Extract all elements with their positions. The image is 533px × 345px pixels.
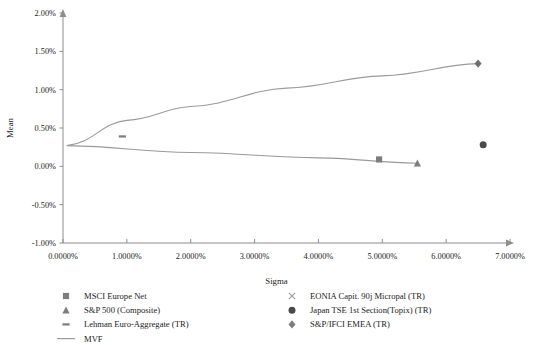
x-tick-label: 6.0000% [431,252,461,261]
y-tick-label: 1.00% [35,86,57,95]
x-tick-label: 2.0000% [176,252,206,261]
data-point-marker [119,135,126,137]
legend-marker-circle [289,307,296,314]
legend-marker-cross [289,293,295,299]
mvf-lower-branch [67,146,418,164]
legend-marker-square [63,293,69,299]
y-tick-label: 1.50% [35,47,57,56]
y-tick-label: 2.00% [35,9,57,18]
x-axis-title: Sigma [265,276,288,286]
y-tick-label: 0.50% [35,124,57,133]
x-tick-label: 5.0000% [367,252,397,261]
x-axis-ticks: 0.0000%1.0000%2.0000%3.0000%4.0000%5.000… [48,239,525,261]
legend-label: S&P/IFCI EMEA (TR) [310,319,390,329]
legend-label: MSCI Europe Net [84,291,147,301]
mvf-frontier [67,64,478,164]
legend-label: Lehman Euro-Aggregate (TR) [84,319,189,329]
y-tick-label: -1.00% [32,239,56,248]
y-axis-ticks: 2.00%1.50%1.00%0.50%0.00%-0.50%-1.00% [32,9,63,248]
y-axis-title: Mean [5,117,15,138]
legend-marker-triangle [62,306,69,313]
y-tick-label: 0.00% [35,162,57,171]
x-tick-label: 3.0000% [240,252,270,261]
mvf-upper-branch [67,64,478,146]
data-point-marker [475,60,482,68]
legend-label: Japan TSE 1st Section(Topix) (TR) [310,305,432,315]
x-tick-label: 7.0000% [495,252,525,261]
legend-label: MVF [84,334,103,344]
y-tick-label: -0.50% [32,201,56,210]
data-point-marker [376,156,382,162]
data-points [119,60,487,167]
chart-legend: MSCI Europe NetS&P 500 (Composite)Lehman… [57,291,432,344]
x-tick-label: 1.0000% [112,252,142,261]
legend-label: EONIA Capit. 90j Micropal (TR) [310,291,425,301]
chart-container: 2.00%1.50%1.00%0.50%0.00%-0.50%-1.00%0.0… [0,0,533,345]
x-tick-label: 0.0000% [48,252,78,261]
mean-sigma-scatter-chart: 2.00%1.50%1.00%0.50%0.00%-0.50%-1.00%0.0… [0,0,533,345]
axes [60,9,514,246]
legend-marker-diamond [289,320,296,328]
data-point-marker [480,141,487,148]
legend-label: S&P 500 (Composite) [84,305,160,315]
legend-marker-dash [62,323,69,325]
x-tick-label: 4.0000% [304,252,334,261]
